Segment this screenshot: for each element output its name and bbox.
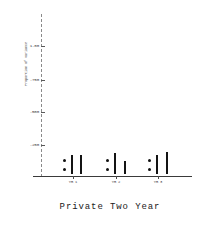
x-tick-label: YR 3	[141, 180, 175, 185]
y-tick-label: .750	[17, 78, 39, 83]
figure-container: 1.00 .750 .500 .250 Proportion of Varian…	[0, 0, 220, 231]
y-axis-title: Proportion of Variance	[24, 34, 28, 94]
x-tick-label: YR 1	[56, 180, 90, 185]
data-dot-column	[63, 151, 66, 171]
data-bar	[166, 152, 168, 174]
data-bar	[80, 155, 82, 174]
y-tick-label: 1.00	[17, 44, 39, 49]
data-bar	[124, 161, 126, 174]
x-tick-mark	[73, 176, 74, 179]
x-tick-label: YR 2	[99, 180, 133, 185]
data-dot	[106, 159, 109, 162]
data-bar	[156, 155, 158, 174]
y-tick-label: .250	[17, 143, 39, 148]
x-axis-line	[33, 176, 192, 177]
data-dot	[63, 168, 66, 171]
data-dot	[106, 168, 109, 171]
x-tick-mark	[158, 176, 159, 179]
data-dot	[148, 168, 151, 171]
data-dot-column	[106, 151, 109, 171]
data-dot	[148, 159, 151, 162]
data-dot	[63, 159, 66, 162]
x-tick-mark	[116, 176, 117, 179]
plot-area	[41, 14, 189, 177]
data-bar	[71, 155, 73, 174]
data-bar	[114, 153, 116, 174]
data-dot-column	[148, 151, 151, 171]
chart-caption: Private Two Year	[0, 201, 220, 213]
y-tick-label: .500	[17, 110, 39, 115]
